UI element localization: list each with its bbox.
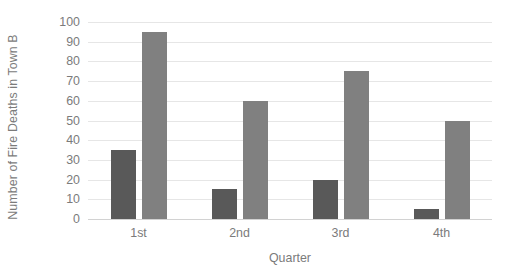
bar-group [189,22,290,219]
x-axis-tick-label: 3rd [332,226,350,240]
bar [445,121,470,220]
bar-group [391,22,492,219]
x-axis-tick-label: 1st [130,226,147,240]
bar [344,71,369,219]
bar [142,32,167,219]
bar [212,189,237,219]
bar-group [290,22,391,219]
bar-group [88,22,189,219]
x-axis-tick-label: 2nd [229,226,250,240]
y-axis-tick-label: 100 [40,15,80,29]
y-axis-tick-label: 20 [40,173,80,187]
y-axis-tick-label: 80 [40,54,80,68]
x-axis-title: Quarter [88,251,492,265]
bar [414,209,439,219]
gridline [88,219,492,220]
y-axis-tick-label: 40 [40,133,80,147]
y-axis-tick-label: 90 [40,35,80,49]
bar [111,150,136,219]
bar [313,180,338,219]
x-axis-tick-labels: 1st2nd3rd4th [88,226,492,246]
y-axis-tick-labels: 0102030405060708090100 [42,22,84,219]
plot-area [88,22,492,219]
y-axis-tick-label: 70 [40,74,80,88]
x-axis-tick-label: 4th [433,226,450,240]
y-axis-title: Number of Fire Deaths in Town B [0,13,26,241]
bars-layer [88,22,492,219]
y-axis-tick-label: 30 [40,153,80,167]
y-axis-tick-label: 60 [40,94,80,108]
y-axis-tick-label: 10 [40,192,80,206]
y-axis-tick-label: 50 [40,114,80,128]
bar-chart: Number of Fire Deaths in Town B 01020304… [0,0,510,278]
y-axis-tick-label: 0 [40,212,80,226]
bar [243,101,268,219]
